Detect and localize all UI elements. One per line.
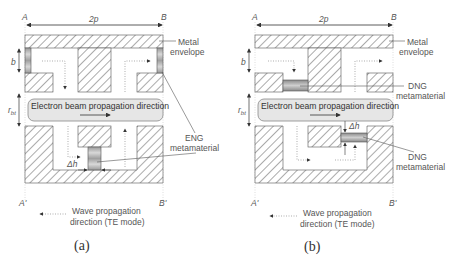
eng-label: ENG bbox=[185, 133, 203, 143]
slot-depth-label: b bbox=[241, 57, 246, 67]
caption-a: (a) bbox=[74, 238, 90, 254]
metal-envelope-label: Metal bbox=[407, 37, 428, 47]
dng-bottom-label: DNG bbox=[408, 152, 427, 162]
wave-direction-label-2: direction (TE mode) bbox=[300, 219, 375, 229]
corner-b-prime-label: B' bbox=[389, 198, 397, 208]
corner-a-label: A bbox=[21, 12, 28, 22]
period-label: 2p bbox=[88, 14, 99, 24]
diagram-canvas: A B 2p b rbt Electron beam propagation d… bbox=[0, 0, 453, 272]
eng-strip-right bbox=[157, 48, 163, 73]
metal-envelope-label-2: envelope bbox=[399, 47, 434, 57]
dng-bottom-label-2: metamaterial bbox=[396, 162, 445, 172]
dng-bar-upper bbox=[283, 80, 308, 91]
corner-a-prime-label: A' bbox=[18, 198, 27, 208]
metal-envelope-upper bbox=[25, 35, 163, 92]
delta-h-label: Δh bbox=[348, 121, 360, 131]
corner-b-label: B bbox=[391, 12, 397, 22]
dng-top-label-2: metamaterial bbox=[396, 91, 445, 101]
corner-a-prime-label: A' bbox=[250, 198, 259, 208]
period-label: 2p bbox=[318, 14, 329, 24]
wave-direction-label: Wave propagation bbox=[72, 206, 141, 216]
slot-depth-label: b bbox=[11, 57, 16, 67]
dng-top-label: DNG bbox=[408, 81, 427, 91]
metal-envelope-label-2: envelope bbox=[170, 47, 205, 57]
beam-direction-label: Electron beam propagation direction bbox=[261, 101, 399, 111]
beam-radius-label: rbt bbox=[8, 105, 16, 116]
eng-block-bottom bbox=[88, 147, 101, 170]
caption-b: (b) bbox=[304, 239, 321, 255]
wave-direction-label: Wave propagation bbox=[303, 208, 372, 218]
panel-a: A B 2p b rbt Electron beam propagation d… bbox=[8, 12, 219, 254]
corner-b-label: B bbox=[161, 12, 167, 22]
eng-strip-left bbox=[25, 48, 31, 73]
panel-b: A B 2p b rbt Electron beam propagation d… bbox=[238, 12, 445, 255]
field-arrow-upper-left bbox=[268, 61, 294, 72]
wave-direction-label-2: direction (TE mode) bbox=[70, 217, 145, 227]
corner-b-prime-label: B' bbox=[159, 198, 167, 208]
delta-h-label: Δh bbox=[66, 159, 78, 169]
corner-a-label: A bbox=[251, 12, 258, 22]
metal-envelope-lower bbox=[255, 126, 393, 183]
metal-envelope-label: Metal bbox=[178, 37, 199, 47]
dng-bar-lower bbox=[341, 133, 367, 142]
metal-envelope-upper bbox=[255, 35, 393, 92]
beam-direction-label: Electron beam propagation direction bbox=[31, 101, 169, 111]
beam-radius-label: rbt bbox=[238, 105, 246, 116]
eng-label-2: metamaterial bbox=[170, 143, 219, 153]
